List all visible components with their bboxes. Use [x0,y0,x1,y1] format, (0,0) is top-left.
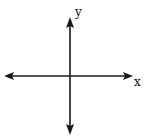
x-axis-label: x [134,76,141,88]
y-axis-label: y [75,6,82,18]
coordinate-axes-diagram: y x [0,0,148,139]
axes-graphic [0,0,148,139]
